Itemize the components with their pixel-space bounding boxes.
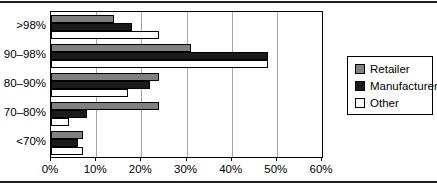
- y-axis-label: 80–90%: [0, 69, 46, 98]
- bar-manufacturer-0: [51, 23, 132, 31]
- bar-manufacturer-4: [51, 139, 78, 147]
- bar-other-0: [51, 31, 159, 39]
- x-axis-label: 50%: [264, 163, 287, 175]
- gridline: [187, 12, 188, 157]
- legend-swatch-manufacturer: [355, 81, 365, 91]
- legend-label: Manufacturer: [370, 80, 437, 92]
- x-axis-label: 20%: [129, 163, 152, 175]
- x-axis-label: 30%: [174, 163, 197, 175]
- x-axis-label: 0%: [42, 163, 59, 175]
- bar-manufacturer-3: [51, 110, 87, 118]
- bottom-rule: [0, 181, 437, 183]
- y-axis: >98%90–98%80–90%70–80%<70%: [0, 11, 46, 156]
- bar-manufacturer-1: [51, 52, 268, 60]
- x-axis-label: 60%: [309, 163, 332, 175]
- grouped-horizontal-bar-chart: >98%90–98%80–90%70–80%<70% 0%10%20%30%40…: [0, 0, 437, 185]
- bar-retailer-3: [51, 102, 159, 110]
- bar-retailer-1: [51, 44, 191, 52]
- top-rule: [0, 1, 437, 3]
- legend: RetailerManufacturerOther: [347, 56, 433, 115]
- bar-other-3: [51, 118, 69, 126]
- legend-item-other: Other: [355, 97, 426, 109]
- y-axis-label: 70–80%: [0, 98, 46, 127]
- y-axis-label: >98%: [0, 11, 46, 40]
- legend-item-manufacturer: Manufacturer: [355, 80, 426, 92]
- bar-other-4: [51, 147, 83, 155]
- bar-retailer-0: [51, 15, 114, 23]
- plot-area: [50, 11, 323, 158]
- y-axis-label: 90–98%: [0, 40, 46, 69]
- axis-tick: [186, 158, 187, 161]
- legend-item-retailer: Retailer: [355, 63, 426, 75]
- bar-other-2: [51, 89, 128, 97]
- x-axis-label: 40%: [219, 163, 242, 175]
- axis-tick: [321, 158, 322, 161]
- axis-tick: [95, 158, 96, 161]
- legend-label: Other: [370, 97, 399, 109]
- bar-other-1: [51, 60, 268, 68]
- axis-tick: [140, 158, 141, 161]
- legend-swatch-other: [355, 98, 365, 108]
- x-axis: 0%10%20%30%40%50%60%: [0, 163, 437, 177]
- gridline: [232, 12, 233, 157]
- gridline: [277, 12, 278, 157]
- x-axis-label: 10%: [84, 163, 107, 175]
- y-axis-label: <70%: [0, 127, 46, 156]
- bar-retailer-2: [51, 73, 159, 81]
- legend-swatch-retailer: [355, 64, 365, 74]
- legend-label: Retailer: [370, 63, 410, 75]
- bar-retailer-4: [51, 131, 83, 139]
- axis-tick: [276, 158, 277, 161]
- bar-manufacturer-2: [51, 81, 150, 89]
- axis-tick: [231, 158, 232, 161]
- axis-tick: [50, 158, 51, 161]
